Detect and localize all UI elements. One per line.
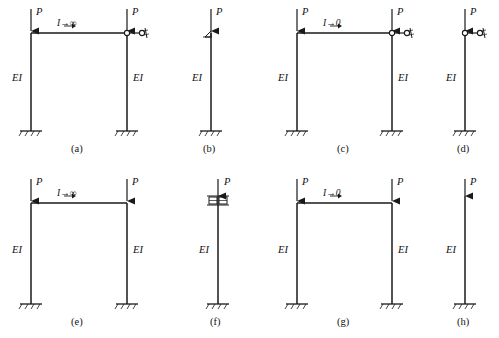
panel-b-column-label: EI — [192, 73, 202, 84]
panel-e — [19, 179, 138, 309]
panel-e-caption: (e) — [71, 317, 83, 328]
panel-b — [199, 9, 222, 136]
panel-a-right-base-support — [115, 131, 138, 136]
panel-a — [19, 9, 149, 136]
panel-d-roller-ground — [483, 28, 485, 38]
panel-d-column-label: EI — [446, 73, 456, 84]
panel-d-load-label: P — [470, 7, 476, 18]
panel-a-beam-label: I→∞ — [57, 19, 76, 29]
panel-f-load-label: P — [224, 177, 230, 188]
panel-e-beam-label: I→∞ — [57, 189, 76, 199]
panel-c-right-column-label: EI — [398, 73, 408, 84]
panel-a-left-load-label: P — [36, 7, 42, 18]
panel-h-column-label: EI — [446, 245, 456, 256]
panel-c-left-load-label: P — [302, 7, 308, 18]
panel-d-caption: (d) — [457, 144, 469, 155]
frames-svg — [0, 0, 499, 338]
panel-f-column-label: EI — [199, 245, 209, 256]
panel-a-hinge-icon — [124, 30, 129, 35]
panel-f-caption: (f) — [210, 317, 221, 328]
panel-c-right-base-support — [380, 131, 403, 136]
panel-g-right-base-support — [380, 304, 403, 309]
panel-d-hinge-icon — [462, 30, 467, 35]
panel-c-caption: (c) — [337, 144, 349, 155]
panel-e-right-column-label: EI — [133, 245, 143, 256]
panel-a-roller-ground — [145, 28, 147, 38]
panel-b-pin-support-icon — [203, 31, 212, 37]
panel-b-base-support — [199, 131, 222, 136]
panel-c-left-base-support — [285, 131, 308, 136]
panel-h — [453, 179, 476, 309]
panel-a-left-base-support — [19, 131, 42, 136]
panel-b-load-label: P — [216, 7, 222, 18]
panel-h-load-label: P — [470, 177, 476, 188]
panel-a-right-load-label: P — [132, 7, 138, 18]
panel-g-left-column-label: EI — [278, 245, 288, 256]
panel-c-hinge-icon — [389, 30, 394, 35]
panel-c-beam-label: I→0 — [323, 19, 340, 29]
panel-h-caption: (h) — [457, 317, 469, 328]
panel-e-left-column-label: EI — [12, 245, 22, 256]
panel-h-base-support — [453, 304, 476, 309]
panel-c — [285, 9, 414, 136]
panel-b-caption: (b) — [203, 144, 215, 155]
panel-d-base-support — [453, 131, 476, 136]
panel-d-roller-hatch-1 — [481, 30, 486, 31]
panel-c-roller-ground — [410, 28, 412, 38]
panel-e-right-base-support — [115, 304, 138, 309]
panel-e-right-load-label: P — [132, 177, 138, 188]
panel-f-base-support — [206, 304, 229, 309]
panel-a-right-column-label: EI — [133, 73, 143, 84]
panel-g — [285, 179, 403, 309]
panel-a-left-column-label: EI — [12, 73, 22, 84]
panel-a-caption: (a) — [71, 144, 83, 155]
panel-c-roller-hatch-1 — [408, 30, 413, 31]
panel-c-right-load-label: P — [397, 7, 403, 18]
panel-a-roller-hatch-1 — [143, 30, 148, 31]
panel-d — [453, 9, 487, 136]
panel-g-left-load-label: P — [302, 177, 308, 188]
panel-e-left-base-support — [19, 304, 42, 309]
panel-g-beam-label: I→0 — [323, 189, 340, 199]
panel-g-caption: (g) — [337, 317, 349, 328]
panel-g-left-base-support — [285, 304, 308, 309]
panel-g-right-column-label: EI — [398, 245, 408, 256]
panel-c-left-column-label: EI — [278, 73, 288, 84]
panel-g-right-load-label: P — [397, 177, 403, 188]
structural-frames-figure: P P I→∞ EI EI (a) P EI (b) P P I→0 EI EI… — [0, 0, 499, 338]
panel-e-left-load-label: P — [36, 177, 42, 188]
panel-f — [206, 179, 229, 309]
